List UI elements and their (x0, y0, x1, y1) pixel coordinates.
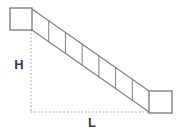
beam-bottom-rail (32, 30, 149, 112)
lower-block (149, 91, 172, 113)
length-label: L (88, 115, 96, 130)
ladder-diagram-canvas: H L (0, 0, 180, 134)
ladder-rungs-group (49, 21, 133, 101)
beam-top-rail (32, 9, 149, 91)
ladder-diagram-svg: H L (0, 0, 180, 134)
ladder-beam (32, 9, 149, 112)
end-blocks (10, 8, 172, 113)
upper-block (10, 8, 32, 30)
height-label: H (14, 57, 23, 72)
